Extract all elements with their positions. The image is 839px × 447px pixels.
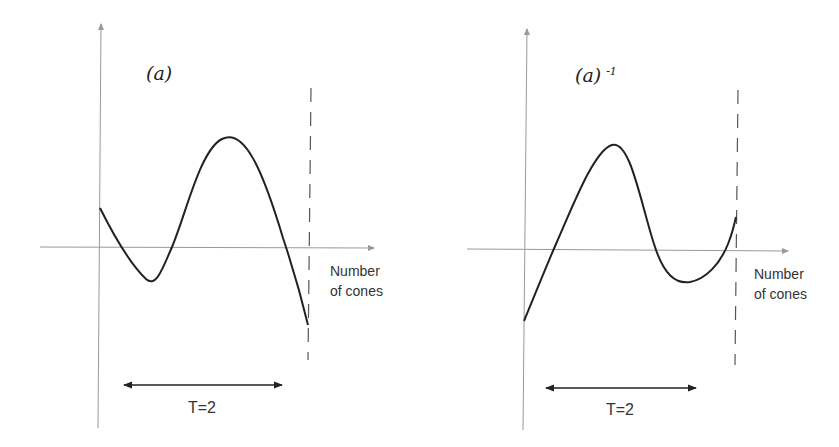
- left-period-label: T=2: [188, 399, 216, 417]
- right-y-axis: [523, 29, 527, 430]
- left-x-axis-label-line2: of cones: [330, 281, 383, 301]
- left-x-axis-label: Number of cones: [330, 261, 383, 301]
- right-period-label: T=2: [606, 401, 634, 419]
- left-panel-title: (a): [146, 62, 177, 84]
- right-title-superscript: -1: [606, 65, 617, 78]
- right-panel-title: (a)-1: [575, 64, 617, 86]
- right-x-axis-label-line1: Number: [754, 264, 807, 284]
- left-y-axis: [98, 24, 101, 428]
- left-title-text: (a): [146, 62, 172, 84]
- left-x-axis: [40, 247, 374, 248]
- right-period-boundary-dashed: [735, 90, 738, 365]
- left-x-axis-label-line1: Number: [330, 261, 383, 281]
- left-diagram: [40, 24, 374, 428]
- right-curve: [524, 145, 736, 321]
- right-x-axis-label-line2: of cones: [754, 284, 807, 304]
- diagram-canvas: [0, 0, 839, 447]
- right-diagram: [467, 29, 788, 430]
- right-x-axis: [467, 249, 788, 251]
- right-x-axis-label: Number of cones: [754, 264, 807, 304]
- left-period-boundary-dashed: [308, 88, 311, 360]
- right-title-text: (a): [575, 64, 601, 86]
- left-curve: [100, 137, 308, 325]
